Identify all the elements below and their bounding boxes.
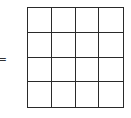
grid-cell: [52, 58, 76, 83]
grid-cell: [99, 82, 123, 107]
grid-cell: [28, 58, 52, 83]
grid-cell: [28, 82, 52, 107]
grid-cell: [76, 8, 100, 33]
grid-cell: [76, 33, 100, 58]
grid-cell: [52, 82, 76, 107]
grid-cell: [28, 33, 52, 58]
grid-cell: [76, 82, 100, 107]
equals-sign: =: [0, 52, 7, 66]
grid-cell: [52, 33, 76, 58]
grid-cell: [28, 8, 52, 33]
grid-cell: [99, 33, 123, 58]
grid-cell: [99, 58, 123, 83]
grid-cell: [99, 8, 123, 33]
grid-cell: [52, 8, 76, 33]
grid-cell: [76, 58, 100, 83]
empty-grid-4x4: [27, 7, 124, 108]
